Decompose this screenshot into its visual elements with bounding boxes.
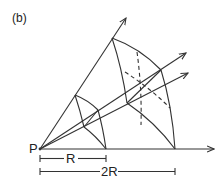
origin-point xyxy=(39,148,42,151)
middle-ray-upper-arrow xyxy=(40,53,186,149)
upper-ray-arrow xyxy=(40,18,126,149)
cone-diagram: (b) P R 2R xyxy=(0,0,222,180)
small-cap xyxy=(75,95,106,149)
scale-r-label: R xyxy=(66,151,75,166)
panel-label: (b) xyxy=(12,11,27,25)
scale-r: R xyxy=(40,151,106,166)
scale-2r: 2R xyxy=(40,164,175,179)
large-cap xyxy=(112,38,175,149)
origin-label: P xyxy=(29,141,38,156)
scale-2r-label: 2R xyxy=(101,164,118,179)
